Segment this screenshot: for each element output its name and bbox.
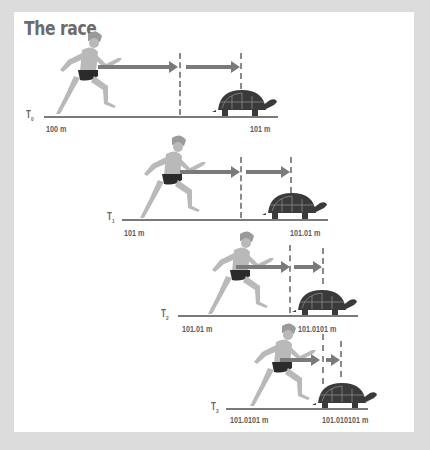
figure-title: The race [24, 17, 96, 39]
figure-panel [14, 12, 414, 432]
